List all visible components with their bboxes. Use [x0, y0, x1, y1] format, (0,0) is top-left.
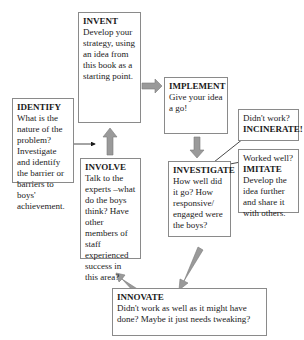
innovate-title: INNOVATE [117, 292, 262, 303]
identify-title: IDENTIFY [17, 102, 69, 113]
incinerate-prefix: Didn't work? [243, 113, 294, 124]
imitate-body: Develop the idea further and share it wi… [243, 175, 294, 219]
investigate-title: INVESTIGATE [173, 165, 226, 176]
invent-to-implement-block-arrow [142, 79, 162, 93]
investigate-box: INVESTIGATE How well did it go? How resp… [168, 161, 231, 237]
imitate-title: IMITATE [243, 164, 294, 175]
implement-box: IMPLEMENT Give your idea a go! [164, 77, 228, 134]
incinerate-title: INCINERATE! [243, 124, 294, 135]
identify-box: IDENTIFY What is the nature of the probl… [12, 98, 74, 183]
innovate-box: INNOVATE Didn't work as well as it might… [112, 288, 267, 336]
imitate-prefix: Worked well? [243, 153, 294, 164]
invent-title: INVENT [83, 16, 136, 27]
invent-body: Develop your strategy, using an idea fro… [83, 27, 136, 82]
incinerate-box: Didn't work? INCINERATE! [238, 109, 299, 141]
involve-box: INVOLVE Talk to the experts –what do the… [80, 158, 141, 259]
implement-title: IMPLEMENT [169, 81, 223, 92]
innovate-body: Didn't work as well as it might have don… [117, 303, 262, 325]
investigate-body: How well did it go? How responsive/ enga… [173, 176, 226, 231]
imitate-box: Worked well? IMITATE Develop the idea fu… [238, 149, 299, 213]
involve-body: Talk to the experts –what do the boys th… [85, 173, 136, 283]
invent-box: INVENT Develop your strategy, using an i… [78, 12, 141, 123]
identify-body: What is the nature of the problem? Inves… [17, 113, 69, 212]
implement-body: Give your idea a go! [169, 92, 223, 114]
involve-title: INVOLVE [85, 162, 136, 173]
investigate-to-innovate-block-arrow [179, 247, 203, 290]
implement-to-investigate-block-arrow [190, 137, 204, 158]
involve-to-invent-block-arrow [103, 128, 117, 155]
